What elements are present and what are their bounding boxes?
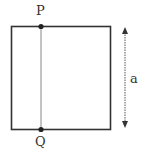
- label-p: P: [36, 4, 45, 17]
- point-q: [38, 127, 43, 132]
- label-a: a: [130, 72, 138, 85]
- square: [12, 27, 111, 130]
- square-diagram: [0, 0, 144, 153]
- arrowhead-up-icon: [122, 27, 128, 34]
- label-q: Q: [35, 135, 46, 148]
- point-p: [38, 24, 43, 29]
- arrowhead-down-icon: [122, 121, 128, 128]
